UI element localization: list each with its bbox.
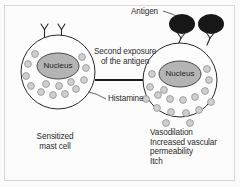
granule-released: [208, 99, 215, 106]
granule: [81, 77, 88, 84]
granule: [79, 54, 86, 61]
second-exposure-label: Second exposure of the antigen: [94, 47, 156, 66]
granule-released: [196, 107, 203, 114]
antigen-label: Antigen: [131, 7, 158, 17]
granule: [56, 83, 63, 90]
granule: [68, 79, 75, 86]
granule: [149, 71, 156, 78]
receptor-icon: [58, 24, 62, 30]
receptor-icon: [207, 38, 210, 45]
granule: [73, 86, 80, 93]
granule: [83, 65, 90, 72]
granule: [202, 88, 209, 95]
granule-released: [154, 105, 161, 112]
granule: [25, 61, 32, 68]
granule: [43, 81, 50, 88]
granule: [180, 97, 187, 104]
granule: [32, 51, 39, 58]
granule: [38, 89, 45, 96]
left-nucleus-label: Nucleus: [38, 61, 78, 70]
granule: [167, 96, 174, 103]
histamine-label: Histamine: [108, 94, 144, 104]
mast-cell-degranulation-figure: Antigen Second exposure of the antigen H…: [0, 0, 240, 187]
antigen-icon: [169, 14, 195, 34]
sensitized-mast-cell-label: Sensitized mast cell: [24, 132, 86, 151]
granule: [50, 92, 57, 99]
histamine-leader-left: [88, 92, 106, 99]
effect-permeability: permeability: [150, 147, 217, 157]
receptor-icon: [41, 24, 45, 30]
granule: [192, 94, 199, 101]
receptor-icon: [45, 24, 49, 30]
sensitized-line2: mast cell: [24, 142, 86, 152]
antigen-blobs: [169, 14, 224, 34]
effect-increased-vascular: Increased vascular: [150, 138, 217, 148]
granule: [155, 92, 162, 99]
granule: [147, 84, 154, 91]
granule-released: [187, 120, 194, 127]
left-cell-receptors: [41, 24, 65, 37]
granule: [23, 73, 30, 80]
granule: [204, 66, 211, 73]
effect-itch: Itch: [150, 157, 217, 167]
second-exposure-line2: of the antigen: [94, 57, 156, 67]
granule-released: [163, 120, 170, 127]
granule-released: [168, 109, 175, 116]
granule: [62, 91, 69, 98]
effects-label: Vasodilation Increased vascular permeabi…: [150, 128, 217, 166]
granule: [161, 87, 168, 94]
sensitized-line1: Sensitized: [24, 132, 86, 142]
right-nucleus-label: Nucleus: [160, 69, 200, 78]
granule: [28, 83, 35, 90]
receptor-icon: [62, 24, 66, 30]
granule-released: [183, 110, 190, 117]
granule: [206, 77, 213, 84]
second-exposure-line1: Second exposure: [94, 47, 156, 57]
antigen-icon: [198, 14, 224, 34]
effect-vasodilation: Vasodilation: [150, 128, 217, 138]
